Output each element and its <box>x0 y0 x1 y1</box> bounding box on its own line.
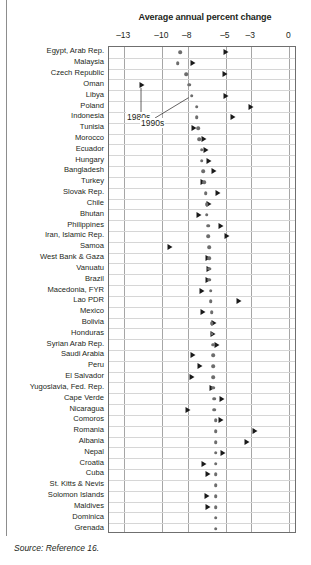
category-label: Bhutan <box>0 210 104 218</box>
horizontal-gridline <box>109 437 295 438</box>
category-label: Ecuador <box>0 145 104 153</box>
category-label: Indonesia <box>0 112 104 120</box>
category-label: Solomon Islands <box>0 491 104 499</box>
x-axis-tick-labels: –13–10–8–5–30 <box>0 30 311 44</box>
data-marker-1990s <box>211 386 215 390</box>
horizontal-gridline <box>109 523 295 524</box>
category-label: Nicaragua <box>0 405 104 413</box>
category-label: Albania <box>0 437 104 445</box>
data-marker-1990s <box>214 505 218 509</box>
category-label: Nepal <box>0 448 104 456</box>
category-label: Poland <box>0 102 104 110</box>
category-label: Philippines <box>0 221 104 229</box>
category-label: Malaysia <box>0 58 104 66</box>
horizontal-gridline <box>109 285 295 286</box>
category-label: Egypt, Arab Rep. <box>0 47 104 55</box>
data-marker-1980s <box>190 60 195 66</box>
data-marker-1980s <box>201 309 206 315</box>
vertical-gridline <box>226 47 227 532</box>
horizontal-gridline <box>109 79 295 80</box>
category-label: Yugoslavia, Fed. Rep. <box>0 383 104 391</box>
chart-title: Average annual percent change <box>105 12 305 22</box>
data-marker-1990s <box>209 300 213 304</box>
data-marker-1990s <box>214 527 218 531</box>
category-label: Turkey <box>0 177 104 185</box>
horizontal-gridline <box>109 58 295 59</box>
data-marker-1980s <box>214 342 219 348</box>
data-marker-1990s <box>205 213 209 217</box>
data-marker-1980s <box>206 471 211 477</box>
horizontal-gridline <box>109 220 295 221</box>
data-marker-1990s <box>214 473 218 477</box>
horizontal-gridline <box>109 361 295 362</box>
category-label: Morocco <box>0 134 104 142</box>
category-label: Slovak Rep. <box>0 188 104 196</box>
category-label: Maldives <box>0 502 104 510</box>
data-marker-1990s <box>202 180 206 184</box>
horizontal-gridline <box>109 372 295 373</box>
horizontal-gridline <box>109 350 295 351</box>
horizontal-gridline <box>109 199 295 200</box>
category-label: Bolivia <box>0 318 104 326</box>
category-label: Bangladesh <box>0 166 104 174</box>
data-marker-1980s <box>203 147 208 153</box>
horizontal-gridline <box>109 328 295 329</box>
data-marker-1990s <box>214 451 218 455</box>
category-label: Brazil <box>0 275 104 283</box>
data-marker-1990s <box>214 429 218 433</box>
horizontal-gridline <box>109 188 295 189</box>
horizontal-gridline <box>109 123 295 124</box>
category-label: Grenada <box>0 524 104 532</box>
data-marker-1990s <box>206 235 210 239</box>
horizontal-gridline <box>109 469 295 470</box>
vertical-gridline <box>251 47 252 532</box>
category-label: Croatia <box>0 459 104 467</box>
data-marker-1980s <box>223 93 228 99</box>
category-label: Hungary <box>0 156 104 164</box>
data-marker-1990s <box>201 170 205 174</box>
horizontal-gridline <box>109 134 295 135</box>
data-marker-1980s <box>202 461 207 467</box>
vertical-gridline <box>289 47 290 532</box>
data-marker-1990s <box>208 267 212 271</box>
horizontal-gridline <box>109 404 295 405</box>
category-label: Cape Verde <box>0 394 104 402</box>
x-tick-label: 0 <box>286 30 291 40</box>
data-marker-1990s <box>209 289 213 293</box>
category-label: West Bank & Gaza <box>0 253 104 261</box>
data-marker-1990s <box>195 105 199 109</box>
data-marker-1980s <box>223 49 228 55</box>
annotation-label-1990s: 1990s <box>140 118 165 128</box>
horizontal-gridline <box>109 502 295 503</box>
data-marker-1990s <box>204 191 208 195</box>
category-label: Oman <box>0 80 104 88</box>
data-marker-1990s <box>205 202 209 206</box>
category-label: Syrian Arab Rep. <box>0 340 104 348</box>
x-tick-label: –13 <box>116 30 130 40</box>
category-label: Chile <box>0 199 104 207</box>
horizontal-gridline <box>109 274 295 275</box>
data-marker-1990s <box>208 278 212 282</box>
data-marker-1980s <box>216 190 221 196</box>
data-marker-1980s <box>190 352 195 358</box>
category-label: Mexico <box>0 307 104 315</box>
data-marker-1980s <box>245 439 250 445</box>
horizontal-gridline <box>109 263 295 264</box>
category-label: Vanuatu <box>0 264 104 272</box>
data-marker-1990s <box>208 256 212 260</box>
data-marker-1990s <box>187 83 191 87</box>
data-marker-1980s <box>218 223 223 229</box>
data-marker-1990s <box>200 159 204 163</box>
data-marker-1980s <box>221 450 226 456</box>
horizontal-gridline <box>109 101 295 102</box>
data-marker-1980s <box>212 168 217 174</box>
data-marker-1990s <box>211 375 215 379</box>
data-marker-1990s <box>214 440 218 444</box>
data-marker-1990s <box>211 343 215 347</box>
horizontal-gridline <box>109 209 295 210</box>
data-marker-1990s <box>214 419 218 423</box>
source-note: Source: Reference 16. <box>14 543 99 553</box>
horizontal-gridline <box>109 166 295 167</box>
data-marker-1980s <box>202 136 207 142</box>
y-axis-category-labels: Egypt, Arab Rep.MalaysiaCzech RepublicOm… <box>0 46 104 533</box>
